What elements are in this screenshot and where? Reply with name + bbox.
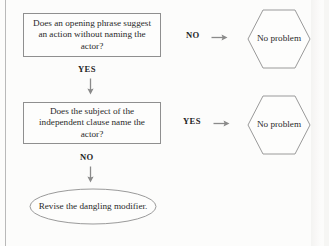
branch-label-q2-yes: YES (183, 116, 201, 126)
decision-box-independent-clause-label: Does the subject of the independent clau… (29, 106, 155, 141)
page-scan-edge-outer (324, 0, 329, 246)
branch-label-q1-yes: YES (78, 64, 96, 74)
branch-label-q1-no: NO (186, 30, 200, 40)
flowchart-page: Does an opening phrase suggest an action… (0, 0, 329, 246)
arrow-down-icon (85, 166, 96, 183)
decision-box-opening-phrase: Does an opening phrase suggest an action… (23, 13, 161, 57)
outcome-hexagon-no-problem-2-label: No problem (247, 95, 311, 155)
arrow-right-icon (211, 32, 228, 43)
branch-label-q2-no: NO (80, 152, 94, 162)
arrow-down-icon (85, 78, 96, 95)
terminal-ellipse-revise-label: Revise the dangling modifier. (29, 188, 157, 225)
decision-box-opening-phrase-label: Does an opening phrase suggest an action… (29, 18, 155, 53)
arrow-right-icon (213, 118, 230, 129)
outcome-hexagon-no-problem-2: No problem (247, 95, 311, 155)
decision-box-independent-clause: Does the subject of the independent clau… (23, 102, 161, 144)
outcome-hexagon-no-problem-1: No problem (247, 9, 311, 69)
page-margin-rule (5, 0, 6, 246)
page-scan-edge (311, 0, 321, 246)
terminal-ellipse-revise: Revise the dangling modifier. (29, 188, 157, 225)
outcome-hexagon-no-problem-1-label: No problem (247, 9, 311, 69)
